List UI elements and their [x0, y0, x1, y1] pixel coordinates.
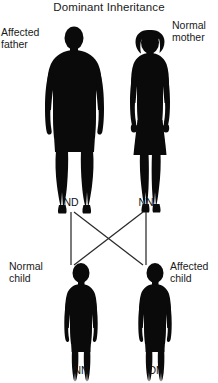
label-affected-child: Affected child — [170, 261, 218, 284]
genotype-normal-child: NN — [64, 365, 98, 376]
label-affected-father: Affected father — [1, 27, 45, 50]
label-normal-child: Normal child — [9, 261, 55, 284]
page-title: Dominant Inheritance — [0, 1, 218, 13]
label-normal-mother: Normal mother — [172, 20, 218, 43]
inheritance-link-layer — [0, 0, 218, 383]
genotype-mother: NN — [129, 197, 163, 208]
silhouette-layer — [0, 0, 218, 383]
link-mother-to-normal-child — [74, 212, 143, 265]
link-father-to-affected-child — [74, 212, 143, 265]
adult-female-silhouette — [130, 30, 170, 213]
adult-male-silhouette — [45, 27, 104, 214]
dominant-inheritance-diagram: Dominant Inheritance — [0, 0, 218, 383]
genotype-father: ND — [54, 197, 88, 208]
genotype-affected-child: DN — [139, 365, 173, 376]
